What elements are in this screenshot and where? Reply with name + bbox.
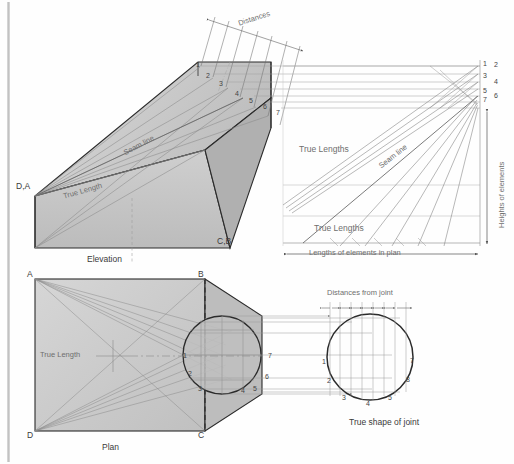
lengths-in-plan-axis-label: Lengths of elements in plan xyxy=(309,248,401,257)
true-shape-point-5: 5 xyxy=(388,394,392,401)
true-lengths-upper-label: True Lengths xyxy=(299,144,349,154)
plan-circle-point-2: 2 xyxy=(188,370,192,377)
elevation-point-6: 6 xyxy=(263,103,267,110)
height-point-3: 3 xyxy=(483,72,487,79)
true-shape-point-8: 8 xyxy=(406,376,410,383)
true-shape-point-4: 4 xyxy=(366,400,370,407)
true-lengths-lower-label: True Lengths xyxy=(314,223,364,233)
true-shape-point-1: 1 xyxy=(322,358,326,365)
height-point-4: 4 xyxy=(494,78,498,85)
true-shape-point-3: 3 xyxy=(342,394,346,401)
true-shape-point-7: 7 xyxy=(410,357,414,364)
plan-circle-point-7: 7 xyxy=(268,352,272,359)
plan-corner-c-label: C xyxy=(198,430,204,440)
elevation-point-5: 5 xyxy=(249,97,253,104)
true-shape-caption: True shape of joint xyxy=(349,417,419,427)
plan-corner-b-label: B xyxy=(198,269,204,279)
heights-of-elements-axis-label: Heights of elements xyxy=(497,162,506,228)
height-point-7: 7 xyxy=(483,96,487,103)
true-shape-construction xyxy=(322,302,413,400)
elevation-point-2: 2 xyxy=(206,72,210,79)
elevation-point-3: 3 xyxy=(219,80,223,87)
elevation-point-4: 4 xyxy=(235,90,239,97)
elevation-corner-left-label: D,A xyxy=(16,181,30,191)
height-point-1: 1 xyxy=(483,60,487,67)
height-point-2: 2 xyxy=(494,61,498,68)
plan-circle-point-6: 6 xyxy=(265,373,269,380)
plan-circle-point-5: 5 xyxy=(253,385,257,392)
drawing-canvas: D,A C,B Elevation True Length Seam line … xyxy=(0,0,514,464)
plan-corner-a-label: A xyxy=(27,269,33,279)
height-point-6: 6 xyxy=(494,92,498,99)
plan-circle-point-1: 1 xyxy=(183,352,187,359)
technical-drawing-svg xyxy=(0,0,514,464)
elevation-point-7: 7 xyxy=(276,109,280,116)
plan-circle-point-3: 3 xyxy=(198,385,202,392)
plan-corner-d-label: D xyxy=(27,430,33,440)
elevation-caption: Elevation xyxy=(87,254,122,264)
elevation-corner-right-label: C,B xyxy=(217,236,231,246)
distances-from-joint-label: Distances from joint xyxy=(327,288,393,297)
height-point-5: 5 xyxy=(483,87,487,94)
plan-true-length-label: True Length xyxy=(40,350,80,359)
elevation-point-1: 1 xyxy=(196,61,200,68)
true-shape-point-2: 2 xyxy=(327,377,331,384)
plan-circle-point-4: 4 xyxy=(241,387,245,394)
plan-caption: Plan xyxy=(102,442,119,452)
